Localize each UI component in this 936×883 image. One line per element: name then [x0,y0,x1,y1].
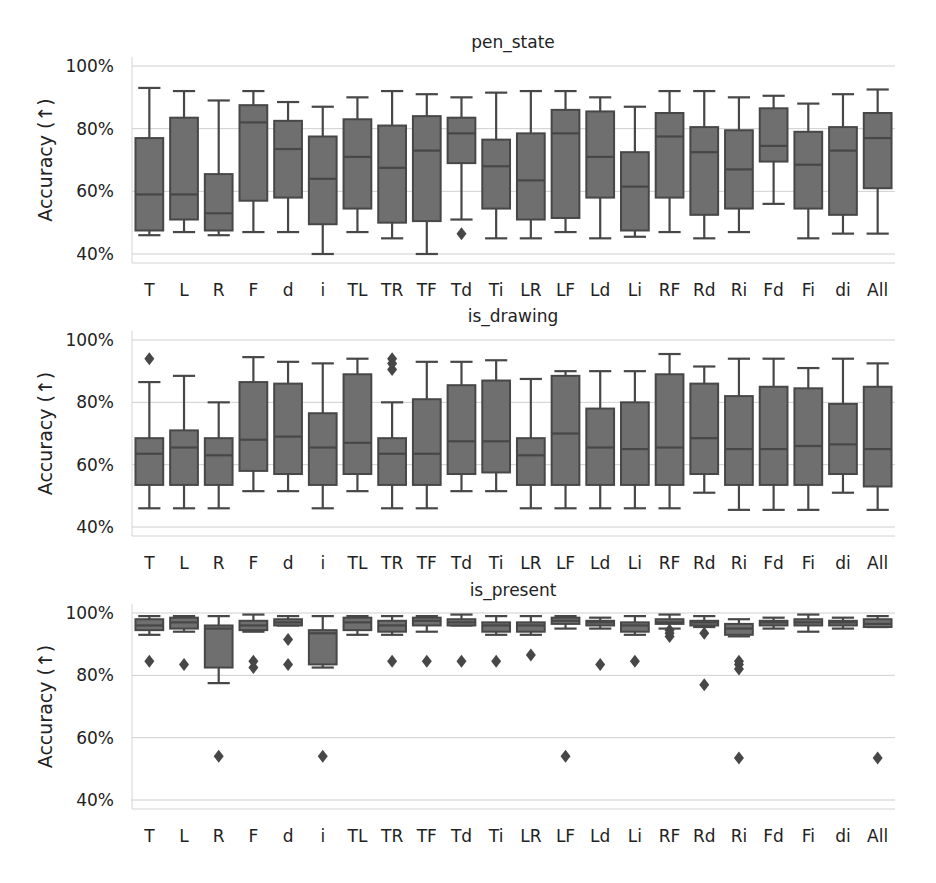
y-tick-label: 60% [76,181,114,201]
iqr-box [552,110,580,218]
box-Td [448,97,476,240]
x-tick-label: d [283,280,294,300]
panel-pen-state: pen_state40%60%80%100%Accuracy (↑)TLRFdi… [34,32,895,300]
iqr-box [309,413,337,485]
x-tick-label: T [143,280,155,300]
box-i [309,616,337,763]
box-TL [344,616,372,635]
box-d [274,362,302,491]
x-tick-label: TL [347,280,368,300]
y-tick-label: 60% [76,455,114,475]
x-tick-label: di [835,826,851,846]
outlier-diamond [873,751,883,764]
box-Rd [690,366,718,492]
x-tick-label: LF [556,280,575,300]
x-tick-label: di [835,280,851,300]
outlier-diamond [456,227,466,240]
box-TL [344,97,372,232]
x-tick-label: RF [659,826,681,846]
iqr-box [240,382,268,471]
chart-title: is_present [470,580,557,601]
x-tick-label: Ld [590,280,610,300]
x-tick-label: Td [450,553,472,573]
iqr-box [205,438,233,485]
x-tick-label: i [320,826,325,846]
iqr-box [864,113,892,188]
y-tick-label: 80% [76,665,114,685]
iqr-box [517,438,545,485]
y-tick-label: 40% [76,790,114,810]
x-tick-label: Ri [731,280,748,300]
panel-is-drawing: is_drawing40%60%80%100%Accuracy (↑)TLRFd… [34,306,895,573]
box-i [309,363,337,508]
iqr-box [413,399,441,485]
box-R [205,402,233,508]
x-tick-label: F [248,280,258,300]
iqr-box [240,105,268,201]
box-LR [517,91,545,238]
box-Ld [586,618,614,671]
iqr-box [829,127,857,215]
y-tick-label: 60% [76,728,114,748]
y-tick-label: 40% [76,244,114,264]
box-RF [656,91,684,232]
box-Fi [794,104,822,239]
iqr-box [794,132,822,209]
x-tick-label: di [835,553,851,573]
box-Ti [482,93,510,239]
outlier-diamond [699,678,709,691]
iqr-box [517,133,545,219]
x-tick-label: TL [347,826,368,846]
box-Ld [586,371,614,508]
x-tick-label: L [179,826,189,846]
x-tick-label: Li [628,280,642,300]
outlier-diamond [144,655,154,668]
x-tick-label: Fd [763,280,784,300]
x-tick-label: T [143,826,155,846]
iqr-box [482,622,510,631]
iqr-box [760,387,788,485]
iqr-box [448,385,476,474]
box-Ti [482,616,510,668]
x-tick-label: LR [520,826,541,846]
iqr-box [482,140,510,209]
box-F [240,615,268,674]
x-tick-label: TF [416,553,437,573]
iqr-box [794,388,822,485]
iqr-box [656,374,684,485]
x-tick-label: i [320,280,325,300]
x-tick-label: R [213,280,225,300]
x-tick-label: Fi [802,826,815,846]
iqr-box [344,618,372,630]
iqr-box [690,127,718,215]
iqr-box [829,404,857,474]
box-LF [552,371,580,508]
x-tick-label: TL [347,553,368,573]
box-Td [448,615,476,668]
iqr-box [482,381,510,473]
x-tick-label: TF [416,280,437,300]
iqr-box [864,387,892,487]
iqr-box [344,374,372,474]
x-tick-label: All [867,553,888,573]
outlier-diamond [422,655,432,668]
outlier-diamond [491,655,501,668]
figure: pen_state40%60%80%100%Accuracy (↑)TLRFdi… [0,0,936,883]
box-All [864,616,892,764]
iqr-box [586,111,614,197]
iqr-box [448,118,476,163]
box-Ti [482,360,510,491]
x-tick-label: Rd [693,280,716,300]
x-tick-label: All [867,280,888,300]
x-tick-label: LF [556,826,575,846]
iqr-box [413,116,441,221]
box-LR [517,379,545,508]
box-Li [621,371,649,508]
y-tick-label: 100% [65,330,114,350]
iqr-box [135,438,163,485]
x-tick-label: Td [450,826,472,846]
iqr-box [621,152,649,230]
box-L [170,376,198,508]
x-tick-label: R [213,826,225,846]
x-tick-label: L [179,553,189,573]
